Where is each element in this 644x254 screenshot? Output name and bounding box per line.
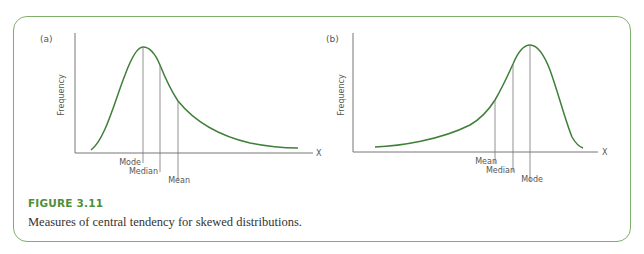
mode-label-a: Mode (119, 158, 141, 167)
x-axis-label-b: X (602, 148, 608, 157)
panel-label-b: (b) (326, 34, 339, 44)
figure-number: FIGURE 3.11 (28, 197, 103, 209)
mean-label-b: Mean (475, 157, 497, 166)
median-label-a: Median (129, 167, 158, 176)
distribution-curve-b (375, 45, 583, 148)
distribution-curve-a (91, 47, 298, 150)
y-axis-label-b: Frequency (337, 74, 346, 116)
chart-panel-a: (a) Frequency X Mode Median Mean (40, 33, 322, 185)
figure-caption: Measures of central tendency for skewed … (28, 215, 302, 230)
chart-panel-b: (b) Frequency X Mean Median Mode (326, 33, 608, 184)
x-axis-label-a: X (316, 149, 322, 158)
mode-label-b: Mode (521, 175, 543, 184)
median-label-b: Median (486, 166, 515, 175)
panel-label-a: (a) (40, 34, 53, 44)
y-axis-label-a: Frequency (57, 74, 66, 116)
mean-label-a: Mean (168, 176, 190, 185)
